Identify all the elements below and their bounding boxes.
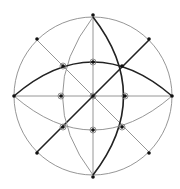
stereographic-net-diagram (0, 0, 180, 189)
